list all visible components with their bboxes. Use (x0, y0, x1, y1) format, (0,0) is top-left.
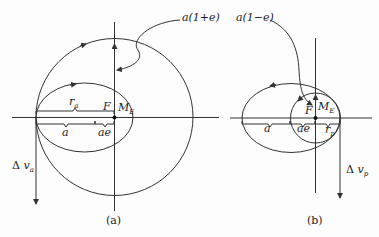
label-ME-a-main: M (118, 101, 129, 114)
label-dv-a-sub: a (30, 166, 34, 174)
label-a-b: a (264, 123, 271, 134)
caption-b: (b) (307, 215, 323, 226)
label-ME-b: ME (318, 101, 334, 115)
label-ME-a: ME (118, 102, 134, 116)
label-F-b: F (305, 105, 313, 116)
diagram-graphics (0, 0, 379, 237)
label-F-a: F (103, 101, 111, 112)
delta-symbol-b: Δ (346, 163, 354, 176)
label-a-a: a (62, 127, 69, 138)
label-ra: ra (69, 96, 78, 110)
focus-dot-b (314, 116, 318, 120)
label-ME-b-sub: E (329, 107, 334, 115)
delta-symbol-a: Δ (12, 159, 20, 172)
label-rp-sub: p (330, 130, 334, 138)
label-ra-sub: a (74, 102, 78, 110)
label-ME-b-main: M (318, 100, 329, 113)
label-ae-b: ae (297, 123, 310, 134)
label-ae-a: ae (98, 127, 111, 138)
label-dv-b-sub: p (364, 170, 368, 178)
figure-a-graphics (12, 20, 219, 211)
label-dv-a: Δ va (12, 160, 34, 174)
label-dv-b: Δ vp (346, 164, 368, 178)
a1me-pointer (270, 20, 312, 105)
label-a1me: a(1−e) (236, 12, 274, 23)
label-rp: rp (325, 124, 335, 138)
label-a1pe: a(1+e) (182, 12, 220, 23)
orbit-transfer-diagram: a(1+e) ra F ME a ae Δ va (a) a(1−e) F ME… (0, 0, 379, 237)
focus-dot-a (113, 116, 117, 120)
caption-a: (a) (106, 215, 121, 226)
label-ME-a-sub: E (129, 108, 134, 116)
